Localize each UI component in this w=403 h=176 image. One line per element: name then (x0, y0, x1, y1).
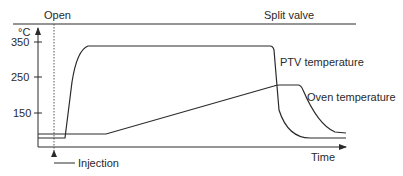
oven-series-label: Oven temperature (307, 91, 396, 103)
injection-label: Injection (78, 157, 119, 169)
x-axis-label: Time (311, 151, 335, 163)
diagram-canvas (0, 0, 403, 176)
ptv-injection-diagram: Open Split valve °C 350 250 150 PTV temp… (0, 0, 403, 176)
oven-temperature-curve (38, 85, 346, 134)
ptv-series-label: PTV temperature (280, 56, 364, 68)
split-valve-label: Split valve (264, 9, 314, 21)
y-tick-label-250: 250 (11, 71, 29, 83)
y-tick-label-350: 350 (11, 36, 29, 48)
valve-open-label: Open (44, 9, 71, 21)
injection-arrow-icon (51, 150, 57, 157)
y-tick-label-150: 150 (13, 107, 31, 119)
